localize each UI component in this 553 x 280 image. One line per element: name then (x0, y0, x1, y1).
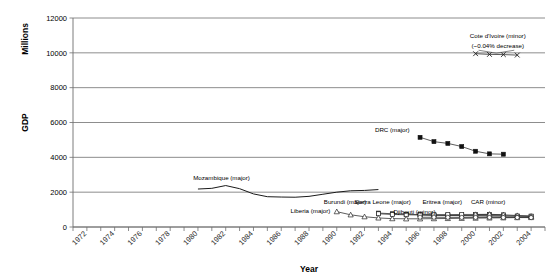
y-tick-label: 6000 (50, 118, 67, 127)
y-tick-label: 8000 (50, 83, 67, 92)
x-tick-label: 1994 (376, 229, 394, 247)
series-marker (460, 215, 464, 219)
x-tick-label: 1996 (403, 229, 421, 247)
x-tick-label: 1998 (431, 229, 449, 247)
x-tick-label: 1984 (237, 229, 255, 247)
x-tick-label: 2002 (487, 229, 505, 247)
series-marker (487, 152, 491, 156)
x-tick-label: 1974 (98, 229, 116, 247)
series-label: Mozambique (major) (193, 174, 250, 181)
x-tick-label: 1988 (292, 229, 310, 247)
series-marker (446, 141, 450, 145)
y-tick-label: 12000 (46, 14, 67, 23)
series-marker (501, 152, 505, 156)
annotations-group: Cote d'Ivoire (minor)(~0.04% decrease) (470, 32, 526, 53)
x-axis-title: Year (300, 264, 319, 274)
series-label: CAR (minor) (471, 198, 505, 205)
data-series-group (198, 51, 534, 221)
series-marker (473, 215, 477, 219)
series-line (476, 54, 518, 55)
series-marker (446, 215, 450, 219)
series-marker (432, 215, 436, 219)
x-tick-label: 2000 (459, 229, 477, 247)
x-tick-label: 1992 (348, 229, 366, 247)
series-labels-group: Mozambique (major)DRC (major)Burundi (ma… (193, 126, 505, 215)
x-tick-label: 1986 (264, 229, 282, 247)
annotation-label-1: (~0.04% decrease) (472, 42, 524, 49)
annotation-label-0: Cote d'Ivoire (minor) (470, 32, 526, 39)
series-label: Liberia (major) (290, 207, 330, 214)
series-label: Djibouti (minor) (394, 208, 436, 215)
y-tick-label: 0 (63, 223, 67, 232)
y-tick-labels-group: 020004000600080001000012000 (46, 14, 67, 232)
series-marker (418, 215, 422, 219)
x-tick-label: 1978 (153, 229, 171, 247)
y-axis-units-title: Millions (20, 23, 30, 55)
y-axis-title: GDP (20, 113, 30, 132)
x-tick-label: 1990 (320, 229, 338, 247)
series-label: Eritrea (major) (422, 198, 462, 205)
series-mozambique-major (198, 186, 378, 198)
y-tick-label: 4000 (50, 153, 67, 162)
series-drc-major (418, 135, 505, 156)
y-tick-label: 10000 (46, 49, 67, 58)
series-label: DRC (major) (375, 126, 410, 133)
series-djibouti-minor (418, 215, 533, 220)
x-tick-label: 1976 (126, 229, 144, 247)
series-marker (474, 149, 478, 153)
series-marker (515, 215, 519, 219)
series-marker (418, 135, 422, 139)
gdp-line-chart: 020004000600080001000012000 197219741976… (0, 0, 553, 280)
series-cote-d-ivoire-minor (473, 51, 519, 57)
x-tick-labels-group: 1972197419761978198019821984198619881990… (70, 229, 532, 247)
series-marker (529, 215, 533, 219)
series-marker (501, 215, 505, 219)
series-line (198, 186, 378, 198)
x-tick-label: 1980 (181, 229, 199, 247)
series-marker (487, 215, 491, 219)
series-marker (432, 140, 436, 144)
series-label: Sierra Leone (major) (354, 198, 411, 205)
x-tick-label: 1972 (70, 229, 88, 247)
series-marker (334, 209, 339, 214)
chart-canvas: 020004000600080001000012000 197219741976… (0, 0, 553, 280)
y-tick-label: 2000 (50, 188, 67, 197)
series-marker (460, 145, 464, 149)
x-tick-label: 2004 (514, 229, 532, 247)
x-tick-label: 1982 (209, 229, 227, 247)
